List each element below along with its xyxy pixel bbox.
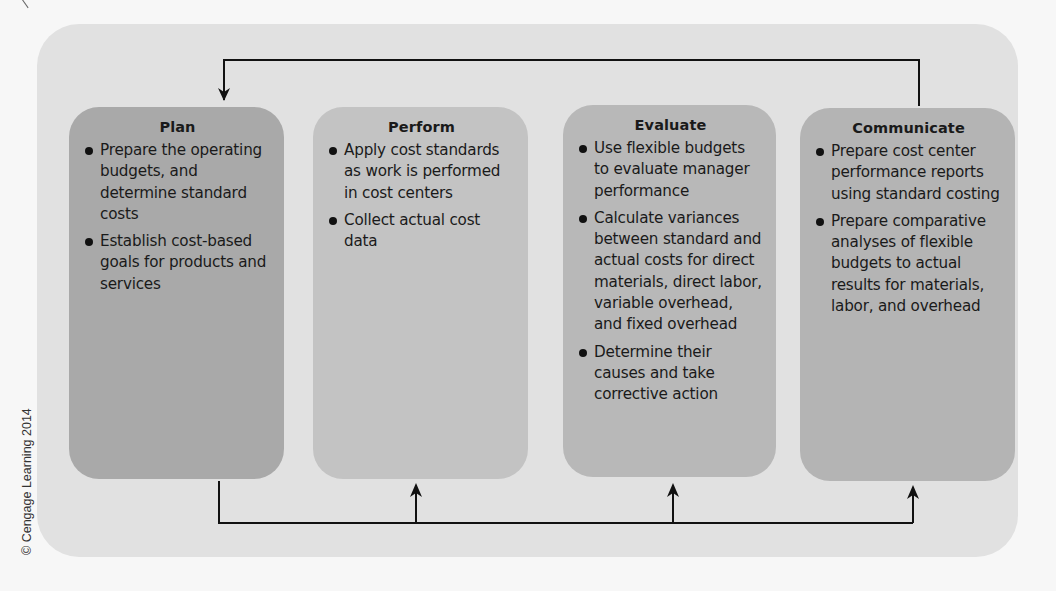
plan-outflow-line <box>219 481 913 523</box>
connector-lines <box>0 0 1056 591</box>
arrow-to-evaluate <box>667 483 679 523</box>
arrow-to-communicate <box>907 485 919 523</box>
copyright-notice: © Cengage Learning 2014 <box>20 408 34 555</box>
arrow-to-perform <box>410 483 422 523</box>
feedback-arrow <box>218 60 919 106</box>
